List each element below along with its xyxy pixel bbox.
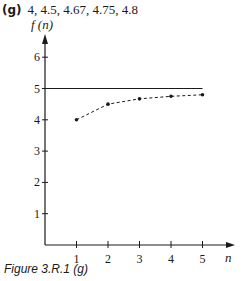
y-axis-label: f (n) [31, 17, 53, 32]
y-tick-label: 1 [34, 207, 40, 221]
data-point [169, 95, 173, 99]
y-tick-label: 2 [34, 175, 40, 189]
data-point [201, 93, 205, 97]
y-tick-label: 6 [34, 50, 40, 64]
y-tick-label: 5 [34, 82, 40, 96]
y-tick-label: 4 [34, 113, 40, 127]
x-tick-label: 4 [168, 252, 174, 266]
x-axis-label: n [225, 250, 232, 265]
chart: f (n)n12345612345 [0, 0, 246, 281]
x-tick-label: 2 [105, 252, 111, 266]
y-axis-arrow-icon [42, 34, 48, 44]
data-point [138, 97, 142, 101]
data-point [75, 118, 79, 122]
x-axis-arrow-icon [226, 242, 235, 248]
x-tick-label: 3 [137, 252, 143, 266]
figure-caption: Figure 3.R.1 (g) [4, 262, 88, 276]
x-tick-label: 5 [200, 252, 206, 266]
data-point [106, 102, 110, 106]
y-tick-label: 3 [34, 144, 40, 158]
